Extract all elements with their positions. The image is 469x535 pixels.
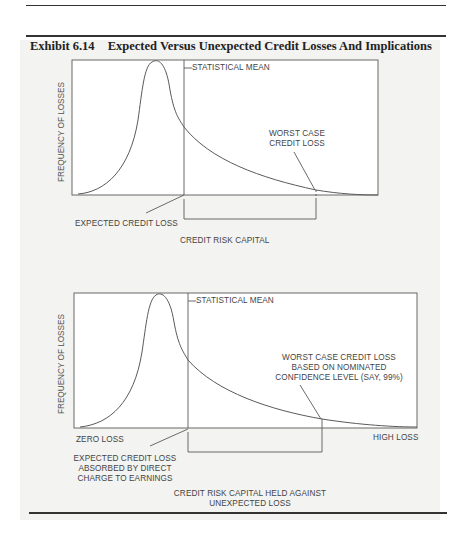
worst-case-label-top-line-1: WORST CASE	[262, 129, 332, 139]
x-min-label: ZERO LOSS	[76, 435, 124, 445]
plot-frame-top	[72, 60, 378, 195]
expected-loss-label-top: EXPECTED CREDIT LOSS	[75, 219, 178, 229]
worst-case-label-bottom-line-3: CONFIDENCE LEVEL (SAY, 99%)	[264, 373, 414, 383]
expected-loss-leader-bottom	[150, 429, 188, 446]
capital-label-top: CREDIT RISK CAPITAL	[180, 236, 269, 246]
expected-loss-label-bottom: EXPECTED CREDIT LOSS ABSORBED BY DIRECT …	[70, 454, 180, 484]
x-max-label: HIGH LOSS	[373, 433, 419, 443]
mean-label-bottom: STATISTICAL MEAN	[196, 296, 274, 306]
capital-bracket-top	[184, 199, 316, 219]
capital-label-bottom-line-1: CREDIT RISK CAPITAL HELD AGAINST	[160, 489, 340, 499]
worst-case-label-bottom-line-2: BASED ON NOMINATED	[264, 363, 414, 373]
mean-label-top: STATISTICAL MEAN	[192, 63, 270, 73]
expected-loss-leader-top	[146, 195, 184, 213]
worst-case-label-bottom-line-1: WORST CASE CREDIT LOSS	[264, 353, 414, 363]
worst-case-label-bottom: WORST CASE CREDIT LOSS BASED ON NOMINATE…	[264, 353, 414, 383]
diagram-top	[72, 60, 378, 219]
expected-loss-label-bottom-line-2: ABSORBED BY DIRECT	[70, 464, 180, 474]
y-axis-label-top: FREQUENCY OF LOSSES	[57, 82, 66, 182]
capital-label-bottom: CREDIT RISK CAPITAL HELD AGAINST UNEXPEC…	[160, 489, 340, 509]
y-axis-label-bottom: FREQUENCY OF LOSSES	[57, 314, 66, 414]
capital-label-bottom-line-2: UNEXPECTED LOSS	[160, 499, 340, 509]
worst-case-label-top: WORST CASE CREDIT LOSS	[262, 129, 332, 149]
worst-case-label-top-line-2: CREDIT LOSS	[262, 139, 332, 149]
expected-loss-label-bottom-line-3: CHARGE TO EARNINGS	[70, 474, 180, 484]
expected-loss-label-bottom-line-1: EXPECTED CREDIT LOSS	[70, 454, 180, 464]
capital-bracket-bottom	[188, 432, 322, 452]
